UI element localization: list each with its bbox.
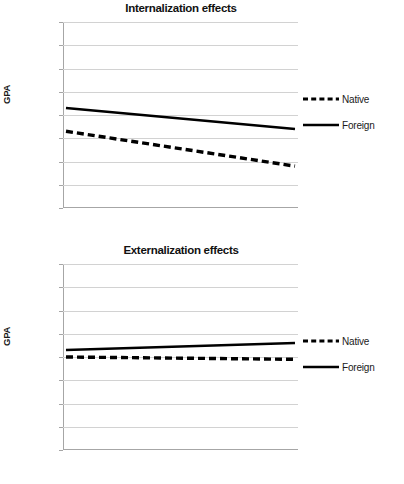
y-axis-label: GPA (1, 85, 12, 104)
plot-area: 3.13.0532.952.92.852.82.752.7 (63, 22, 298, 208)
dashed-line-icon (302, 93, 340, 105)
chart-title: Externalization effects (63, 244, 299, 256)
legend-item-foreign: Foreign (302, 112, 402, 138)
series-line-native (66, 357, 295, 359)
legend-label-native: Native (342, 94, 369, 105)
legend-item-native: Native (302, 328, 402, 354)
y-axis-label: GPA (1, 327, 12, 346)
legend-label-foreign: Foreign (342, 120, 375, 131)
y-axis-tick-mark (59, 450, 63, 451)
chart-panel-externalization: Externalization effects GPA 3.13.0532.95… (0, 242, 404, 484)
dashed-line-icon (302, 335, 340, 347)
y-axis-tick-mark (59, 208, 63, 209)
series-line-foreign (66, 108, 295, 129)
legend: Native Foreign (302, 86, 402, 138)
legend-item-native: Native (302, 86, 402, 112)
legend-item-foreign: Foreign (302, 354, 402, 380)
solid-line-icon (302, 119, 340, 131)
legend-label-native: Native (342, 336, 369, 347)
chart-panel-internalization: Internalization effects GPA 3.13.0532.95… (0, 0, 404, 242)
legend-label-foreign: Foreign (342, 362, 375, 373)
legend: Native Foreign (302, 328, 402, 380)
chart-title: Internalization effects (63, 2, 299, 14)
series-layer (63, 22, 298, 208)
figure-two-panel-line-charts: Internalization effects GPA 3.13.0532.95… (0, 0, 404, 484)
plot-area: 3.13.0532.952.92.852.82.752.7 (63, 264, 298, 450)
series-layer (63, 264, 298, 450)
series-line-foreign (66, 343, 295, 350)
series-line-native (66, 131, 295, 166)
solid-line-icon (302, 361, 340, 373)
